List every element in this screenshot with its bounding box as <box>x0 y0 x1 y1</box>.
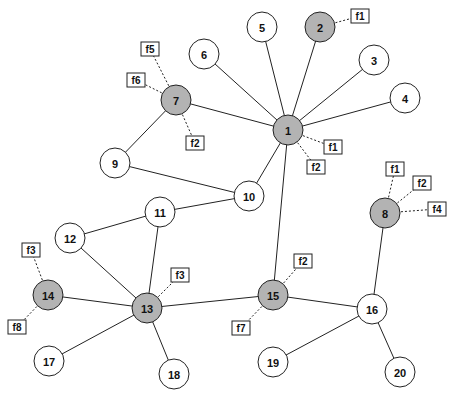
feature-label-f2: f2 <box>307 160 325 174</box>
node-label: 16 <box>366 304 378 316</box>
feature-label-text: f6 <box>132 75 141 86</box>
feature-label-text: f2 <box>312 162 321 173</box>
node-15: 15 <box>258 280 288 310</box>
node-3: 3 <box>359 45 389 75</box>
node-13: 13 <box>132 293 162 323</box>
feature-label-text: f1 <box>356 11 365 22</box>
node-label: 7 <box>173 95 179 107</box>
node-2: 2 <box>305 12 335 42</box>
feature-label-text: f3 <box>176 270 185 281</box>
node-label: 18 <box>168 369 180 381</box>
feature-label-f8: f8 <box>8 320 26 334</box>
node-7: 7 <box>161 85 191 115</box>
node-label: 20 <box>394 367 406 379</box>
node-label: 1 <box>285 125 291 137</box>
feature-label-text: f4 <box>433 204 442 215</box>
node-11: 11 <box>145 197 175 227</box>
node-label: 3 <box>371 55 377 67</box>
edge-13-15 <box>147 295 273 308</box>
node-19: 19 <box>258 347 288 377</box>
feature-label-text: f2 <box>191 138 200 149</box>
feature-label-f4: f4 <box>428 202 446 216</box>
node-label: 10 <box>243 191 255 203</box>
node-9: 9 <box>100 148 130 178</box>
edge-13-17 <box>49 308 147 361</box>
edge-9-10 <box>115 163 249 196</box>
network-diagram: 1234567891011121314151617181920 f1f5f6f2… <box>0 0 455 394</box>
node-label: 14 <box>42 290 55 302</box>
node-6: 6 <box>189 39 219 69</box>
node-12: 12 <box>55 223 85 253</box>
edge-1-3 <box>288 60 374 130</box>
node-label: 8 <box>382 208 388 220</box>
node-18: 18 <box>159 359 189 389</box>
feature-label-f2: f2 <box>413 176 431 190</box>
edge-12-13 <box>70 238 147 308</box>
node-10: 10 <box>234 181 264 211</box>
feature-label-text: f1 <box>329 142 338 153</box>
feature-label-f1: f1 <box>351 9 369 23</box>
node-20: 20 <box>385 357 415 387</box>
feature-label-text: f2 <box>418 178 427 189</box>
feature-label-text: f1 <box>391 164 400 175</box>
node-14: 14 <box>33 280 63 310</box>
feature-label-f3: f3 <box>22 243 40 257</box>
feature-label-text: f8 <box>13 322 22 333</box>
feature-label-f1: f1 <box>324 140 342 154</box>
node-label: 12 <box>64 233 76 245</box>
feature-label-f2: f2 <box>294 254 312 268</box>
node-5: 5 <box>247 12 277 42</box>
node-label: 17 <box>43 356 55 368</box>
node-label: 2 <box>317 22 323 34</box>
feature-label-f5: f5 <box>141 42 159 56</box>
feature-label-f3: f3 <box>171 268 189 282</box>
feature-label-f7: f7 <box>232 321 250 335</box>
feature-label-text: f3 <box>27 245 36 256</box>
node-label: 15 <box>267 290 279 302</box>
feature-label-text: f2 <box>299 256 308 267</box>
node-label: 6 <box>201 49 207 61</box>
node-4: 4 <box>390 83 420 113</box>
node-label: 4 <box>402 93 409 105</box>
node-label: 19 <box>267 357 279 369</box>
feature-label-f2: f2 <box>186 136 204 150</box>
node-16: 16 <box>357 294 387 324</box>
edge-1-4 <box>288 98 405 130</box>
graph-edges <box>48 27 405 374</box>
node-8: 8 <box>370 198 400 228</box>
edge-1-5 <box>262 27 288 130</box>
edge-16-19 <box>273 309 372 362</box>
node-label: 5 <box>259 22 265 34</box>
feature-label-text: f7 <box>237 323 246 334</box>
node-label: 13 <box>141 303 153 315</box>
feature-label-text: f5 <box>146 44 155 55</box>
node-label: 9 <box>112 158 118 170</box>
feature-label-f6: f6 <box>127 73 145 87</box>
edge-1-2 <box>288 27 320 130</box>
feature-label-f1: f1 <box>386 162 404 176</box>
edge-1-15 <box>273 130 288 295</box>
node-label: 11 <box>154 207 166 219</box>
node-1: 1 <box>273 115 303 145</box>
node-17: 17 <box>34 346 64 376</box>
